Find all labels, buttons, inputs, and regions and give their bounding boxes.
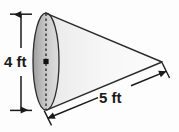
cone-figure: 4 ft 5 ft [0, 0, 179, 132]
cone-illustration: 4 ft 5 ft [0, 0, 179, 132]
height-dimension-label: 4 ft [4, 53, 27, 70]
slant-dimension-label: 5 ft [99, 89, 122, 106]
base-center-point [43, 59, 48, 64]
